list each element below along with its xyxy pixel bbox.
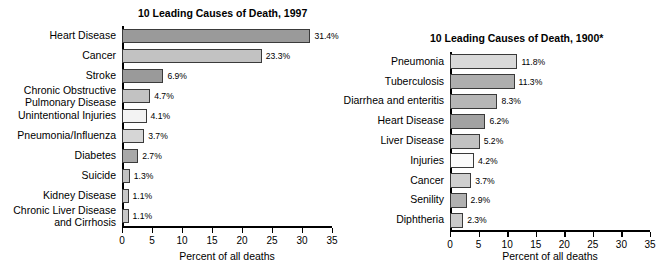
plot-area-1997: Heart Disease31.4%Cancer23.3%Stroke6.9%C… [122, 26, 332, 226]
bar-value-label: 3.7% [475, 176, 495, 186]
x-tick [564, 232, 565, 237]
bar-value-label: 4.1% [151, 111, 171, 121]
category-label: Diabetes [0, 150, 122, 162]
x-tick [212, 228, 213, 233]
bar-row: Chronic Liver Disease and Cirrhosis1.1% [122, 209, 332, 223]
category-label: Chronic Obstructive Pulmonary Disease [0, 85, 122, 108]
bar-value-label: 1.3% [134, 171, 154, 181]
bar [122, 209, 129, 223]
figure-two-bar-charts: 10 Leading Causes of Death, 1997 Heart D… [0, 0, 669, 272]
bar-value-label: 11.8% [521, 57, 545, 67]
x-tick-label: 0 [435, 239, 465, 250]
bar-row: Injuries4.2% [450, 153, 650, 168]
x-tick-label: 20 [549, 239, 579, 250]
bar-value-label: 2.7% [142, 151, 162, 161]
bar [122, 89, 150, 103]
bar-value-label: 2.3% [467, 215, 487, 225]
x-tick [272, 228, 273, 233]
category-label: Diarrhea and enteritis [322, 96, 450, 108]
category-label: Heart Disease [322, 115, 450, 127]
category-label: Stroke [0, 70, 122, 82]
bar-rows-1997: Heart Disease31.4%Cancer23.3%Stroke6.9%C… [122, 26, 332, 226]
x-tick-label: 10 [167, 235, 197, 246]
bar-row: Diphtheria2.3% [450, 213, 650, 228]
x-axis-line [450, 230, 650, 232]
category-label: Cancer [0, 50, 122, 62]
bar-value-label: 5.2% [484, 136, 504, 146]
category-label: Pneumonia/Influenza [0, 130, 122, 142]
x-tick-label: 20 [227, 235, 257, 246]
category-label: Suicide [0, 170, 122, 182]
x-tick-label: 15 [521, 239, 551, 250]
bar [450, 134, 480, 149]
bar [450, 193, 467, 208]
category-label: Chronic Liver Disease and Cirrhosis [0, 205, 122, 228]
bar-value-label: 2.9% [471, 195, 491, 205]
bar-row: Tuberculosis11.3% [450, 74, 650, 89]
bar [450, 54, 517, 69]
bar-row: Diabetes2.7% [122, 149, 332, 163]
chart-1997: 10 Leading Causes of Death, 1997 Heart D… [0, 0, 340, 272]
bar-row: Kidney Disease1.1% [122, 189, 332, 203]
bar-value-label: 6.9% [167, 71, 187, 81]
category-label: Heart Disease [0, 30, 122, 42]
x-axis-label-1997: Percent of all deaths [122, 250, 332, 262]
bar [122, 49, 262, 63]
x-tick-label: 0 [107, 235, 137, 246]
x-tick-label: 30 [287, 235, 317, 246]
x-tick-label: 10 [492, 239, 522, 250]
bar [122, 149, 138, 163]
bar [122, 169, 130, 183]
bar-row: Stroke6.9% [122, 69, 332, 83]
bar-row: Pneumonia11.8% [450, 54, 650, 69]
bar [122, 189, 129, 203]
bar-value-label: 4.7% [154, 91, 174, 101]
x-tick [621, 232, 622, 237]
bar-row: Diarrhea and enteritis8.3% [450, 94, 650, 109]
bar-value-label: 11.3% [519, 77, 543, 87]
bar [450, 173, 471, 188]
bar-row: Heart Disease6.2% [450, 114, 650, 129]
category-label: Liver Disease [322, 135, 450, 147]
x-tick [650, 232, 651, 237]
bar [122, 69, 163, 83]
bar [450, 94, 497, 109]
x-tick [507, 232, 508, 237]
bar-row: Cancer23.3% [122, 49, 332, 63]
x-tick [122, 228, 123, 233]
category-label: Injuries [322, 155, 450, 167]
x-tick-label: 5 [464, 239, 494, 250]
chart-title-1900: 10 Leading Causes of Death, 1900* [430, 32, 603, 44]
bar-value-label: 4.2% [478, 156, 498, 166]
bar [450, 153, 474, 168]
chart-1900: 10 Leading Causes of Death, 1900* Pneumo… [330, 0, 669, 272]
x-tick [302, 228, 303, 233]
x-tick [479, 232, 480, 237]
bar-value-label: 8.3% [501, 96, 521, 106]
bar-value-label: 1.1% [133, 211, 153, 221]
bar-rows-1900: Pneumonia11.8%Tuberculosis11.3%Diarrhea … [450, 52, 650, 230]
x-tick-label: 15 [197, 235, 227, 246]
bar-row: Liver Disease5.2% [450, 134, 650, 149]
bar-value-label: 3.7% [148, 131, 168, 141]
bar [450, 114, 485, 129]
chart-title-1997: 10 Leading Causes of Death, 1997 [138, 7, 307, 19]
x-tick-label: 35 [635, 239, 665, 250]
x-tick-label: 25 [578, 239, 608, 250]
bar-row: Pneumonia/Influenza3.7% [122, 129, 332, 143]
bar-row: Heart Disease31.4% [122, 29, 332, 43]
category-label: Tuberculosis [322, 76, 450, 88]
category-label: Kidney Disease [0, 190, 122, 202]
x-tick-label: 30 [606, 239, 636, 250]
category-label: Pneumonia [322, 56, 450, 68]
x-tick [450, 232, 451, 237]
bar-row: Chronic Obstructive Pulmonary Disease4.7… [122, 89, 332, 103]
bar-row: Cancer3.7% [450, 173, 650, 188]
bar-value-label: 23.3% [266, 51, 290, 61]
x-axis-line [122, 226, 332, 228]
x-tick [182, 228, 183, 233]
bar-row: Unintentional Injuries4.1% [122, 109, 332, 123]
bar [122, 129, 144, 143]
x-axis-label-1900: Percent of all deaths [450, 250, 650, 262]
x-tick-label: 25 [257, 235, 287, 246]
